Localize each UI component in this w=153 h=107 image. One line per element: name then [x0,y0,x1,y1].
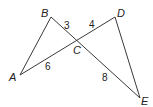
geometry-diagram: A B C D E 3 4 6 8 [0,0,153,107]
vertex-label-e: E [141,95,149,107]
length-label-ac: 6 [45,61,51,72]
vertex-label-c: C [73,44,81,56]
segment-de [115,17,140,98]
vertex-label-a: A [8,71,16,83]
length-label-ce: 8 [102,72,108,83]
length-label-cd: 4 [89,19,95,30]
vertex-label-b: B [41,7,48,19]
vertex-label-d: D [117,7,125,19]
length-label-bc: 3 [64,20,70,31]
